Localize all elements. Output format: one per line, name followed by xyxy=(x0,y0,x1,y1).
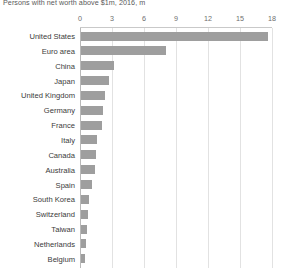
category-label: Belgium xyxy=(0,255,75,265)
bar xyxy=(81,61,114,70)
x-tick-label: 3 xyxy=(110,14,114,23)
bar xyxy=(81,150,96,159)
x-tick-label: 6 xyxy=(142,14,146,23)
category-label: Switzerland xyxy=(0,210,75,220)
bar-row: South Korea xyxy=(0,193,290,208)
category-label: South Korea xyxy=(0,195,75,205)
bar-row: Switzerland xyxy=(0,208,290,223)
bar-row: France xyxy=(0,119,290,134)
bar xyxy=(81,254,85,263)
category-label: Australia xyxy=(0,166,75,176)
bar xyxy=(81,165,95,174)
category-label: Taiwan xyxy=(0,225,75,235)
category-label: Japan xyxy=(0,77,75,87)
bar-row: China xyxy=(0,59,290,74)
chart-subtitle: Persons with net worth above $1m, 2016, … xyxy=(3,0,145,7)
bar-row: Spain xyxy=(0,178,290,193)
bar-row: Euro area xyxy=(0,44,290,59)
bar-row: United Kingdom xyxy=(0,89,290,104)
category-label: Canada xyxy=(0,151,75,161)
bar-row: Italy xyxy=(0,133,290,148)
bar xyxy=(81,76,109,85)
bar-row: Taiwan xyxy=(0,223,290,238)
bar xyxy=(81,180,92,189)
bar-row: Japan xyxy=(0,74,290,89)
category-label: Germany xyxy=(0,106,75,116)
category-label: United Kingdom xyxy=(0,91,75,101)
bar-row: United States xyxy=(0,30,290,45)
bar-row: Canada xyxy=(0,148,290,163)
bar xyxy=(81,239,86,248)
bar xyxy=(81,210,88,219)
bar xyxy=(81,121,102,130)
category-label: Euro area xyxy=(0,47,75,57)
bar xyxy=(81,46,166,55)
bar xyxy=(81,225,87,234)
bar-chart: Persons with net worth above $1m, 2016, … xyxy=(0,0,290,272)
bar xyxy=(81,32,268,41)
bar-row: Belgium xyxy=(0,252,290,267)
bar-row: Germany xyxy=(0,104,290,119)
bar-row: Australia xyxy=(0,163,290,178)
category-label: China xyxy=(0,62,75,72)
x-tick-label: 18 xyxy=(268,14,276,23)
category-label: France xyxy=(0,121,75,131)
bar-row: Netherlands xyxy=(0,237,290,252)
category-label: Italy xyxy=(0,136,75,146)
bar xyxy=(81,195,89,204)
x-tick-label: 0 xyxy=(78,14,82,23)
bar xyxy=(81,91,105,100)
x-tick-label: 15 xyxy=(236,14,244,23)
category-label: United States xyxy=(0,32,75,42)
bar xyxy=(81,135,97,144)
category-label: Spain xyxy=(0,181,75,191)
x-tick-label: 12 xyxy=(204,14,212,23)
category-label: Netherlands xyxy=(0,240,75,250)
bar xyxy=(81,106,103,115)
x-tick-label: 9 xyxy=(174,14,178,23)
